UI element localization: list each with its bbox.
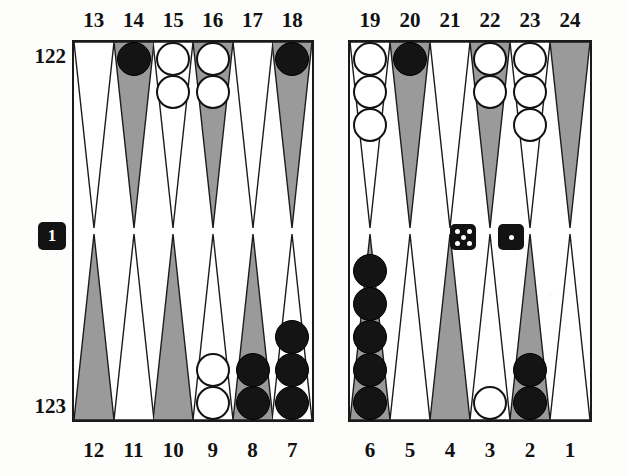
die-pip — [455, 229, 460, 234]
point-label-2: 2 — [510, 438, 550, 463]
die-pip — [467, 241, 472, 246]
point-label-19: 19 — [350, 8, 390, 33]
checker-white-point-15[interactable] — [156, 42, 190, 76]
point-label-17: 17 — [233, 8, 273, 33]
doubling-cube[interactable]: 1 — [38, 222, 66, 250]
checker-black-point-14[interactable] — [117, 42, 151, 76]
checker-black-point-2[interactable] — [513, 353, 547, 387]
die-pip — [509, 235, 514, 240]
checker-white-point-22[interactable] — [473, 75, 507, 109]
checker-white-point-9[interactable] — [196, 353, 230, 387]
point-1[interactable] — [550, 234, 590, 420]
checker-black-point-18[interactable] — [275, 42, 309, 76]
checker-white-point-19[interactable] — [353, 75, 387, 109]
checker-black-point-7[interactable] — [275, 386, 309, 420]
point-label-11: 11 — [114, 438, 154, 463]
point-label-1: 1 — [550, 438, 590, 463]
checker-white-point-19[interactable] — [353, 42, 387, 76]
pip-count-bottom: 123 — [8, 394, 66, 419]
point-4[interactable] — [430, 234, 470, 420]
die-left[interactable] — [450, 224, 476, 250]
point-label-14: 14 — [114, 8, 154, 33]
checker-black-point-8[interactable] — [236, 386, 270, 420]
point-17[interactable] — [233, 42, 273, 228]
point-label-16: 16 — [193, 8, 233, 33]
point-label-24: 24 — [550, 8, 590, 33]
checker-white-point-22[interactable] — [473, 42, 507, 76]
checker-white-point-16[interactable] — [196, 42, 230, 76]
point-12[interactable] — [74, 234, 114, 420]
checker-black-point-6[interactable] — [353, 353, 387, 387]
point-24[interactable] — [550, 42, 590, 228]
checker-white-point-16[interactable] — [196, 75, 230, 109]
checker-black-point-2[interactable] — [513, 386, 547, 420]
point-label-7: 7 — [272, 438, 312, 463]
checker-white-point-23[interactable] — [513, 42, 547, 76]
point-5[interactable] — [390, 234, 430, 420]
backgammon-board: 122 123 1 131415161718192021222324121110… — [0, 0, 626, 476]
point-label-6: 6 — [350, 438, 390, 463]
checker-black-point-6[interactable] — [353, 386, 387, 420]
point-label-5: 5 — [390, 438, 430, 463]
point-label-9: 9 — [193, 438, 233, 463]
point-label-10: 10 — [153, 438, 193, 463]
checker-black-point-7[interactable] — [275, 353, 309, 387]
point-10[interactable] — [153, 234, 193, 420]
point-21[interactable] — [430, 42, 470, 228]
checker-black-point-20[interactable] — [393, 42, 427, 76]
point-11[interactable] — [114, 234, 154, 420]
point-label-8: 8 — [233, 438, 273, 463]
checker-white-point-15[interactable] — [156, 75, 190, 109]
die-pip — [461, 235, 466, 240]
die-pip — [467, 229, 472, 234]
checker-white-point-23[interactable] — [513, 108, 547, 142]
point-label-20: 20 — [390, 8, 430, 33]
point-label-21: 21 — [430, 8, 470, 33]
point-13[interactable] — [74, 42, 114, 228]
checker-white-point-3[interactable] — [473, 386, 507, 420]
point-label-22: 22 — [470, 8, 510, 33]
checker-black-point-6[interactable] — [353, 320, 387, 354]
checker-black-point-6[interactable] — [353, 287, 387, 321]
pip-count-top: 122 — [8, 44, 66, 69]
point-label-13: 13 — [74, 8, 114, 33]
checker-black-point-6[interactable] — [353, 254, 387, 288]
point-label-23: 23 — [510, 8, 550, 33]
checker-black-point-7[interactable] — [275, 320, 309, 354]
point-label-18: 18 — [272, 8, 312, 33]
point-label-15: 15 — [153, 8, 193, 33]
checker-white-point-9[interactable] — [196, 386, 230, 420]
die-right[interactable] — [498, 224, 524, 250]
point-label-3: 3 — [470, 438, 510, 463]
die-pip — [455, 241, 460, 246]
checker-black-point-8[interactable] — [236, 353, 270, 387]
point-label-4: 4 — [430, 438, 470, 463]
checker-white-point-19[interactable] — [353, 108, 387, 142]
point-label-12: 12 — [74, 438, 114, 463]
checker-white-point-23[interactable] — [513, 75, 547, 109]
